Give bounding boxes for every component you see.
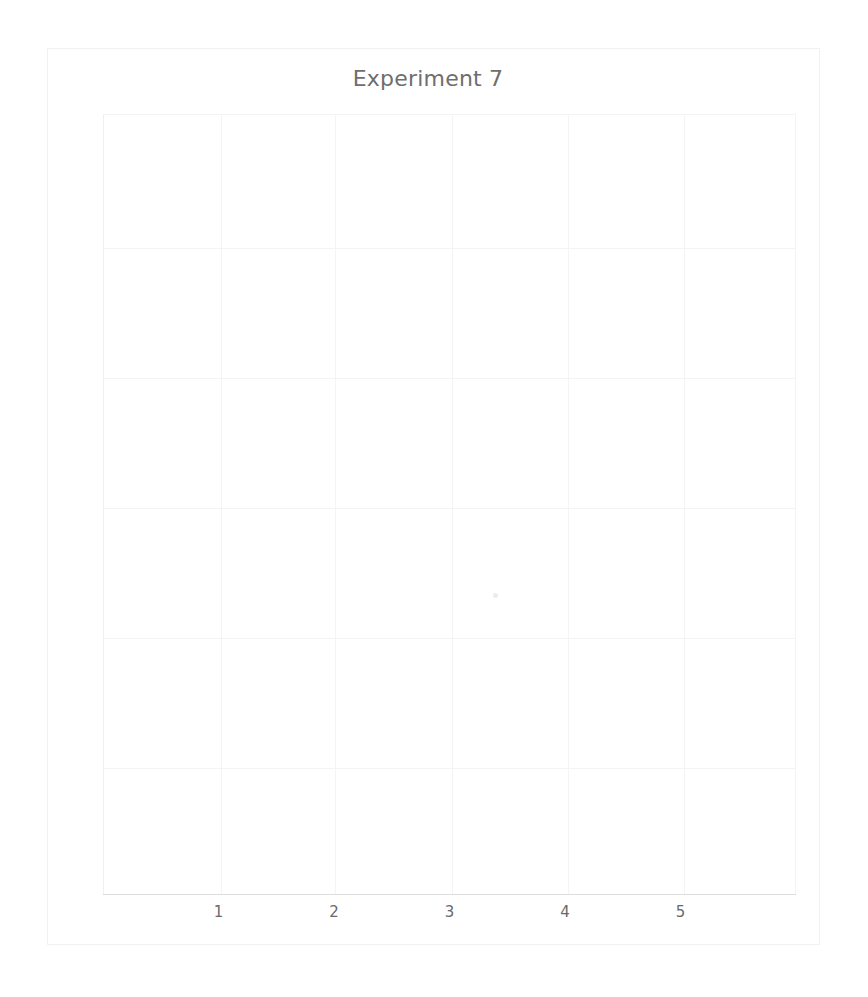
axis-spine-top bbox=[103, 114, 796, 115]
gridline-horizontal bbox=[103, 508, 796, 509]
gridline-horizontal bbox=[103, 248, 796, 249]
gridline-horizontal bbox=[103, 378, 796, 379]
y-axis-tick-labels bbox=[47, 114, 101, 895]
gridline-horizontal bbox=[103, 638, 796, 639]
gridline-vertical bbox=[452, 114, 453, 895]
data-point bbox=[493, 593, 498, 598]
x-tick-label: 3 bbox=[445, 903, 455, 921]
gridline-vertical bbox=[221, 114, 222, 895]
gridline-horizontal bbox=[103, 768, 796, 769]
x-tick-label: 1 bbox=[214, 903, 224, 921]
plot-area[interactable] bbox=[103, 114, 796, 895]
gridline-vertical bbox=[335, 114, 336, 895]
gridline-vertical bbox=[684, 114, 685, 895]
axis-spine-left bbox=[103, 114, 104, 895]
x-tick-label: 4 bbox=[560, 903, 570, 921]
axis-spine-bottom bbox=[103, 894, 796, 895]
x-axis-tick-labels: 12345 bbox=[103, 903, 796, 933]
axis-spine-right bbox=[795, 114, 796, 895]
gridline-vertical bbox=[568, 114, 569, 895]
x-tick-label: 2 bbox=[329, 903, 339, 921]
figure: Experiment 7 12345 bbox=[0, 0, 868, 997]
x-tick-label: 5 bbox=[676, 903, 686, 921]
chart-title: Experiment 7 bbox=[47, 66, 809, 91]
